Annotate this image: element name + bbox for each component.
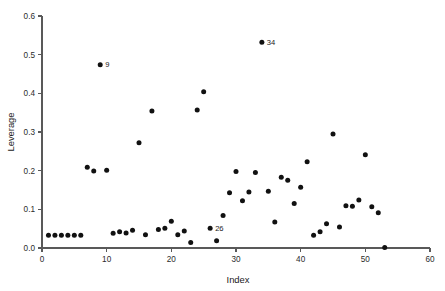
data-point <box>214 238 219 243</box>
data-point <box>318 229 323 234</box>
data-point <box>143 232 148 237</box>
data-point <box>246 189 251 194</box>
point-annotation-label: 34 <box>267 38 275 47</box>
data-point <box>227 190 232 195</box>
data-point <box>285 178 290 183</box>
data-point <box>331 131 336 136</box>
y-tick-label-4: 0.4 <box>24 89 36 98</box>
data-point <box>78 233 83 238</box>
data-point <box>337 225 342 230</box>
data-point <box>343 203 348 208</box>
data-point <box>311 233 316 238</box>
data-point <box>279 175 284 180</box>
data-point <box>350 204 355 209</box>
axes <box>42 16 430 248</box>
y-tick-label-6: 0.6 <box>24 12 36 21</box>
y-tick-label-3: 0.3 <box>24 128 36 137</box>
data-point <box>253 170 258 175</box>
data-point <box>46 233 51 238</box>
data-point <box>195 107 200 112</box>
y-tick-label-0: 0.0 <box>24 244 36 253</box>
data-point <box>324 221 329 226</box>
data-point <box>169 219 174 224</box>
data-point <box>72 233 77 238</box>
data-point <box>201 89 206 94</box>
data-point <box>65 233 70 238</box>
data-point <box>124 230 129 235</box>
data-point <box>305 159 310 164</box>
data-point <box>208 226 213 231</box>
y-tick-label-5: 0.5 <box>24 51 36 60</box>
x-tick-label-4: 40 <box>296 255 306 264</box>
data-point <box>292 201 297 206</box>
data-point <box>182 228 187 233</box>
axis-ticks <box>38 16 430 252</box>
data-point <box>137 140 142 145</box>
x-tick-label-2: 20 <box>167 255 177 264</box>
data-point <box>234 169 239 174</box>
x-tick-label-1: 10 <box>102 255 112 264</box>
point-annotation-label: 9 <box>105 60 109 69</box>
data-point <box>85 165 90 170</box>
data-point <box>98 62 103 67</box>
data-points <box>46 40 387 250</box>
plot-area: 0.00.10.20.30.40.50.60102030405060 93426… <box>0 0 445 291</box>
data-point <box>298 185 303 190</box>
data-point <box>221 213 226 218</box>
data-point <box>356 198 361 203</box>
x-tick-label-0: 0 <box>40 255 45 264</box>
y-tick-label-2: 0.2 <box>24 167 36 176</box>
data-point <box>156 227 161 232</box>
axis-tick-labels: 0.00.10.20.30.40.50.60102030405060 <box>24 12 435 264</box>
leverage-scatter-chart: 0.00.10.20.30.40.50.60102030405060 93426… <box>0 0 445 291</box>
point-annotation-label: 26 <box>215 224 223 233</box>
data-point <box>188 240 193 245</box>
data-point <box>111 231 116 236</box>
y-tick-label-1: 0.1 <box>24 205 36 214</box>
data-point <box>52 233 57 238</box>
data-point <box>59 233 64 238</box>
data-point <box>104 168 109 173</box>
data-point <box>117 229 122 234</box>
x-tick-label-5: 50 <box>361 255 371 264</box>
data-point <box>91 169 96 174</box>
x-tick-label-3: 30 <box>231 255 241 264</box>
data-point <box>240 198 245 203</box>
data-point <box>175 232 180 237</box>
data-point <box>382 245 387 250</box>
data-point <box>369 204 374 209</box>
x-tick-label-6: 60 <box>425 255 435 264</box>
data-point <box>162 226 167 231</box>
data-point <box>266 189 271 194</box>
data-point <box>272 220 277 225</box>
data-point <box>149 109 154 114</box>
point-annotations: 93426 <box>105 38 275 233</box>
data-point <box>363 152 368 157</box>
x-axis-title: Index <box>227 274 250 285</box>
data-point <box>130 228 135 233</box>
data-point <box>376 210 381 215</box>
y-axis-title: Leverage <box>5 112 16 151</box>
data-point <box>259 40 264 45</box>
